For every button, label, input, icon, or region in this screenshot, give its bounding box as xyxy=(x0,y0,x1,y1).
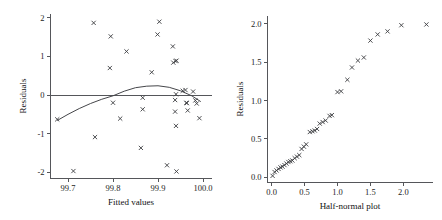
x-tick-label: 2.0 xyxy=(398,187,409,197)
data-point-marker xyxy=(297,153,301,157)
lowess-fit-curve xyxy=(57,86,201,121)
data-point-marker xyxy=(174,124,178,128)
data-point-marker xyxy=(165,163,169,167)
x-tick-label: 99.7 xyxy=(61,183,76,193)
residuals-vs-fitted-panel: -2-101299.799.899.9100.0Fitted valuesRes… xyxy=(0,0,221,220)
data-point-marker xyxy=(295,155,299,159)
data-point-marker xyxy=(118,116,122,120)
y-tick-label: 2 xyxy=(40,13,44,23)
data-point-marker xyxy=(368,38,372,42)
data-point-marker xyxy=(173,110,177,114)
x-tick-label: 0.5 xyxy=(299,187,310,197)
data-point-marker xyxy=(424,22,428,26)
residuals-vs-fitted-plot: -2-101299.799.899.9100.0Fitted valuesRes… xyxy=(0,0,221,220)
y-tick-label: -2 xyxy=(37,167,44,177)
data-point-marker xyxy=(350,65,354,69)
data-point-marker xyxy=(335,90,339,94)
data-point-marker xyxy=(93,135,97,139)
data-point-marker xyxy=(171,44,175,48)
data-point-marker xyxy=(157,20,161,24)
data-point-marker xyxy=(385,29,389,33)
data-point-marker xyxy=(315,127,319,131)
data-points xyxy=(271,22,429,178)
data-point-marker xyxy=(271,174,275,178)
data-point-marker xyxy=(139,146,143,150)
data-point-marker xyxy=(362,55,366,59)
y-tick-label: 1.0 xyxy=(251,96,262,106)
residual-diagnostics-figure: -2-101299.799.899.9100.0Fitted valuesRes… xyxy=(0,0,442,220)
x-tick-label: 0.0 xyxy=(266,187,277,197)
x-tick-label: 1.5 xyxy=(365,187,376,197)
data-point-marker xyxy=(141,96,145,100)
data-point-marker xyxy=(186,108,190,112)
data-point-marker xyxy=(339,89,343,93)
x-tick-label: 1.0 xyxy=(332,187,343,197)
y-tick-label: 1 xyxy=(40,51,44,61)
data-point-marker xyxy=(124,49,128,53)
half-normal-panel: 0.00.51.01.52.00.00.51.01.52.0Half-norma… xyxy=(221,0,442,220)
x-tick-label: 99.9 xyxy=(151,183,166,193)
data-point-marker xyxy=(304,142,308,146)
data-point-marker xyxy=(108,66,112,70)
data-point-marker xyxy=(111,101,115,105)
data-point-marker xyxy=(174,92,178,96)
x-tick-label: 99.8 xyxy=(106,183,121,193)
y-tick-label: -1 xyxy=(37,129,44,139)
data-point-marker xyxy=(197,116,201,120)
data-point-marker xyxy=(155,32,159,36)
x-tick-label: 100.0 xyxy=(193,183,212,193)
data-point-marker xyxy=(150,70,154,74)
y-tick-label: 1.5 xyxy=(251,57,262,67)
data-point-marker xyxy=(345,78,349,82)
data-point-marker xyxy=(109,34,113,38)
y-axis-title: Residuals xyxy=(18,78,28,113)
data-point-marker xyxy=(399,23,403,27)
data-point-marker xyxy=(141,107,145,111)
data-point-marker xyxy=(191,89,195,93)
data-point-marker xyxy=(173,98,177,102)
data-point-marker xyxy=(293,156,297,160)
data-point-marker xyxy=(356,58,360,62)
x-axis-title: Fitted values xyxy=(108,197,155,207)
data-point-marker xyxy=(376,32,380,36)
half-normal-plot: 0.00.51.01.52.00.00.51.01.52.0Half-norma… xyxy=(221,0,442,220)
data-point-marker xyxy=(92,21,96,25)
y-tick-label: 0 xyxy=(40,90,44,100)
y-axis-title: Residuals xyxy=(235,81,245,116)
y-tick-label: 0.0 xyxy=(251,172,262,182)
y-tick-label: 2.0 xyxy=(251,19,262,29)
x-axis-title: Half-normal plot xyxy=(320,201,381,211)
data-point-marker xyxy=(71,169,75,173)
data-points xyxy=(55,20,201,174)
data-point-marker xyxy=(174,169,178,173)
y-tick-label: 0.5 xyxy=(251,134,262,144)
